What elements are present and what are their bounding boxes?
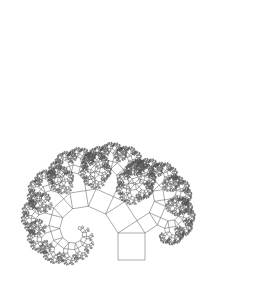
tree-squares bbox=[21, 142, 196, 265]
tree-square-paths bbox=[21, 142, 196, 265]
pythagoras-tree-diagram bbox=[0, 0, 268, 281]
